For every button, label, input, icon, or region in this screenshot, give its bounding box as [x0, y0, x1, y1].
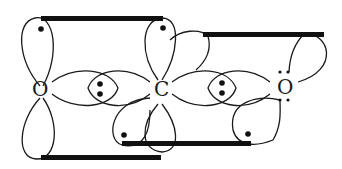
- sigma-right-lobe-b: [208, 71, 270, 106]
- atom-o-left: O: [32, 77, 48, 101]
- sigma-left-lobe-b: [88, 71, 150, 106]
- sigma-pair-left-dot: [97, 91, 103, 97]
- left-o-top-lobe: [22, 18, 54, 86]
- electron-dot: [160, 25, 166, 31]
- electron-dot: [38, 26, 44, 32]
- sigma-left-lobe-a: [52, 71, 118, 106]
- pi-bar-top-right: [203, 32, 324, 37]
- electron-dot: [245, 131, 251, 137]
- sigma-right-lobe-a: [172, 71, 236, 106]
- electron-dot: [121, 132, 127, 138]
- left-o-bottom-lobe: [22, 98, 54, 159]
- atom-c: C: [154, 77, 169, 101]
- sigma-pair-left-dot: [97, 81, 103, 87]
- atom-o-right: O: [277, 75, 293, 99]
- pi-bar-bottom-left: [41, 155, 161, 160]
- pi-bar-bottom-right: [122, 141, 251, 146]
- lone-pair-dot: [286, 70, 289, 73]
- co2-orbital-diagram: O C O: [0, 0, 342, 169]
- sigma-pair-right-dot: [219, 80, 225, 86]
- pi-bar-top-left: [41, 16, 163, 21]
- lone-pair-dot: [278, 70, 281, 73]
- sigma-pair-right-dot: [219, 90, 225, 96]
- right-o-top-lobe: [289, 34, 327, 82]
- c-top-lobe: [145, 18, 176, 80]
